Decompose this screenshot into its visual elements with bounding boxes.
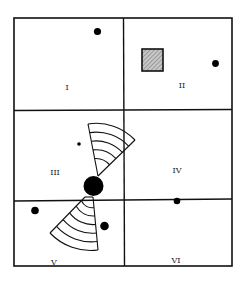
dot-icon bbox=[212, 60, 219, 67]
large-dot-icon bbox=[84, 176, 104, 196]
cell-label-vi: VI bbox=[171, 256, 181, 265]
horizontal-divider-1 bbox=[14, 110, 232, 111]
small-dot-icon bbox=[77, 142, 81, 146]
dot-icon bbox=[94, 28, 101, 35]
fan-sector-lower-icon bbox=[50, 197, 98, 250]
cell-label-iii: III bbox=[50, 168, 59, 177]
cell-label-ii: II bbox=[179, 81, 185, 90]
dot-icon bbox=[174, 198, 181, 205]
grid-diagram: I II III IV V VI bbox=[0, 0, 245, 288]
dot-icon bbox=[31, 207, 39, 215]
cell-label-iv: IV bbox=[173, 166, 182, 175]
horizontal-divider-2 bbox=[14, 199, 232, 201]
dot-icon bbox=[100, 222, 109, 231]
cell-label-i: I bbox=[65, 83, 68, 92]
hatched-square-icon bbox=[142, 49, 163, 71]
cell-label-v: V bbox=[50, 258, 57, 267]
fan-sector-upper-icon bbox=[88, 123, 135, 176]
